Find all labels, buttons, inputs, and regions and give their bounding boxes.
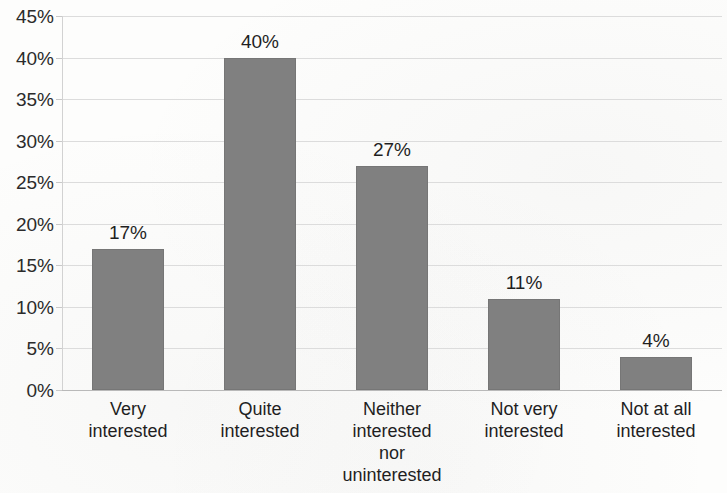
y-axis-tick-label: 40% (2, 48, 54, 67)
bar-value-label: 17% (109, 223, 147, 242)
x-axis-category-label: Neither interested nor uninterested (342, 399, 441, 487)
x-axis-line (62, 390, 722, 391)
x-axis-category-label: Very interested (88, 399, 167, 443)
y-axis-tick-label: 45% (2, 7, 54, 26)
gridline (62, 16, 722, 17)
y-axis-tick-label: 10% (2, 297, 54, 316)
y-axis-tick-label: 30% (2, 131, 54, 150)
gridline (62, 99, 722, 100)
y-axis-tick-label: 0% (2, 381, 54, 400)
bar (488, 299, 560, 390)
bar-value-label: 27% (373, 140, 411, 159)
chart-page: 45%40%35%30%25%20%15%10%5%0% 17%40%27%11… (0, 0, 727, 493)
y-axis-tick-label: 25% (2, 173, 54, 192)
y-axis-tick-label: 5% (2, 339, 54, 358)
bar-value-label: 40% (241, 32, 279, 51)
bar (356, 166, 428, 390)
bar (224, 58, 296, 390)
bar-value-label: 4% (642, 331, 669, 350)
y-axis-tick-label: 35% (2, 90, 54, 109)
y-axis-tick-label: 20% (2, 214, 54, 233)
x-axis-category-label: Not very interested (484, 399, 563, 443)
gridline (62, 58, 722, 59)
y-axis-tick-label: 15% (2, 256, 54, 275)
y-axis-label-group: 45%40%35%30%25%20%15%10%5%0% (0, 0, 54, 493)
bar-value-label: 11% (506, 273, 543, 292)
bar (92, 249, 164, 390)
y-axis-line (62, 16, 63, 391)
x-axis-category-label: Quite interested (220, 399, 299, 443)
bar-chart: 45%40%35%30%25%20%15%10%5%0% 17%40%27%11… (0, 0, 727, 493)
bar (620, 357, 692, 390)
x-axis-category-label: Not at all interested (616, 399, 695, 443)
